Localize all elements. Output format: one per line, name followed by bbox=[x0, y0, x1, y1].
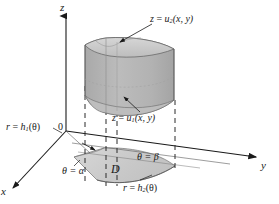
outer-radius-args: (θ) bbox=[146, 182, 157, 193]
theta-end-label: θ = β bbox=[137, 152, 159, 162]
region-d-group bbox=[74, 148, 175, 183]
y-axis-label: y bbox=[261, 160, 266, 171]
lower-surface-args: (x, y) bbox=[135, 112, 156, 123]
x-axis-label: x bbox=[1, 186, 6, 197]
inner-radius-label: r = h1(θ) bbox=[6, 122, 40, 133]
polar-solid-figure: z y x 0 z = u2(x, y) z = u1(x, y) r = h1… bbox=[0, 0, 279, 204]
outer-radius-eq: = bbox=[127, 182, 138, 193]
solid-body bbox=[85, 37, 174, 115]
origin-label: 0 bbox=[58, 122, 63, 132]
lower-surface-label: z = u1(x, y) bbox=[112, 113, 155, 124]
theta-start-label: θ = α bbox=[62, 166, 84, 176]
figure-canvas bbox=[0, 0, 279, 204]
region-d-label: D bbox=[111, 163, 120, 175]
outer-radius-label: r = h2(θ) bbox=[123, 183, 157, 194]
upper-surface-eq: = bbox=[154, 13, 165, 24]
upper-surface-label: z = u2(x, y) bbox=[150, 14, 193, 25]
upper-surface-args: (x, y) bbox=[173, 13, 194, 24]
z-axis-label: z bbox=[60, 2, 64, 13]
inner-radius-args: (θ) bbox=[29, 121, 40, 132]
leader-region-arrow bbox=[82, 143, 95, 150]
lower-surface-eq: = bbox=[116, 112, 127, 123]
x-axis bbox=[13, 131, 66, 188]
inner-radius-eq: = bbox=[10, 121, 21, 132]
